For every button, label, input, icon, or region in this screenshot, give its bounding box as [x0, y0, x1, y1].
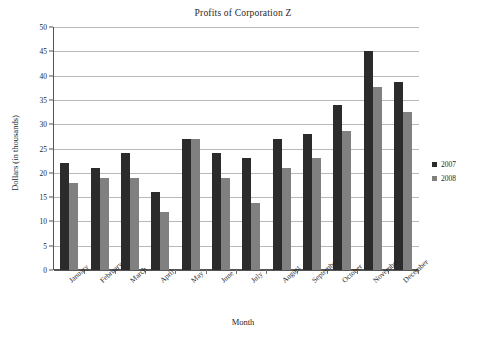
bar[interactable] — [182, 139, 191, 270]
bar[interactable] — [100, 178, 109, 270]
x-tick-label: June — [219, 269, 235, 285]
bar[interactable] — [373, 87, 382, 270]
bar[interactable] — [91, 168, 100, 270]
y-tick-label: 25 — [1, 144, 47, 153]
bar[interactable] — [242, 158, 251, 270]
bar[interactable] — [221, 178, 230, 270]
bar[interactable] — [191, 139, 200, 270]
chart-title: Profits of Corporation Z — [0, 8, 486, 18]
bar[interactable] — [69, 183, 78, 270]
legend-item[interactable]: 2008 — [432, 174, 486, 183]
bar[interactable] — [282, 168, 291, 270]
legend-item[interactable]: 2007 — [432, 160, 486, 169]
bar[interactable] — [151, 192, 160, 270]
chart-legend: 20072008 — [432, 160, 486, 188]
legend-label: 2007 — [441, 160, 456, 169]
bar[interactable] — [121, 153, 130, 270]
y-tick-label: 5 — [1, 241, 47, 250]
bar[interactable] — [303, 134, 312, 270]
bar[interactable] — [394, 82, 403, 270]
bar[interactable] — [273, 139, 282, 270]
y-tick-label: 50 — [1, 23, 47, 32]
bar[interactable] — [403, 112, 412, 270]
y-tick-label: 45 — [1, 47, 47, 56]
x-tick-label: May — [189, 269, 205, 285]
bar[interactable] — [160, 212, 169, 270]
y-tick-label: 30 — [1, 120, 47, 129]
bar[interactable] — [60, 163, 69, 270]
y-axis-ticks: 05101520253035404550 — [0, 27, 53, 270]
legend-label: 2008 — [441, 174, 456, 183]
legend-swatch-icon — [432, 162, 437, 167]
y-tick-label: 10 — [1, 217, 47, 226]
bar[interactable] — [364, 51, 373, 270]
y-tick-label: 40 — [1, 71, 47, 80]
x-axis-label: Month — [0, 317, 486, 327]
bar[interactable] — [342, 131, 351, 270]
legend-swatch-icon — [432, 176, 437, 181]
y-tick-label: 15 — [1, 193, 47, 202]
bar[interactable] — [333, 105, 342, 270]
bar[interactable] — [251, 203, 260, 270]
bar[interactable] — [312, 158, 321, 270]
x-tick-label: July — [249, 270, 264, 285]
y-tick-label: 20 — [1, 168, 47, 177]
y-tick-label: 35 — [1, 95, 47, 104]
bar[interactable] — [212, 153, 221, 270]
bar-chart: Profits of Corporation Z Dollars (in tho… — [0, 0, 486, 337]
x-tick-label: April — [158, 267, 176, 284]
x-axis-labels: JanuaryFebruaryMarchAprilMayJuneJulyAugu… — [0, 270, 486, 320]
bars-layer — [54, 27, 418, 270]
bar[interactable] — [130, 178, 139, 270]
